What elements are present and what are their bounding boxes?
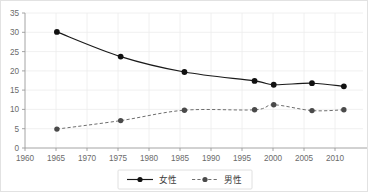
series-line-male [57, 105, 344, 129]
data-point[interactable] [182, 69, 188, 75]
x-tick-label: 2010 [326, 154, 345, 163]
y-tick-label: 20 [10, 67, 20, 76]
data-point[interactable] [252, 107, 257, 112]
x-tick-label: 1975 [109, 154, 128, 163]
data-point[interactable] [309, 108, 314, 113]
x-tick-label: 2000 [264, 154, 283, 163]
data-series-layer [54, 29, 347, 132]
series-male [54, 102, 346, 132]
x-tick-label: 1995 [233, 154, 252, 163]
data-point[interactable] [341, 83, 347, 89]
legend-label-female: 女性 [159, 174, 177, 185]
data-point[interactable] [54, 29, 60, 35]
series-line-female [57, 32, 344, 86]
gridlines-vertical [56, 13, 335, 148]
data-point[interactable] [309, 80, 315, 86]
chart-legend: 女性 男性 [118, 170, 252, 189]
y-tick-label: 35 [10, 9, 20, 18]
chart-plot-area: 35 30 25 20 15 10 5 0 1960 1965 1970 197… [1, 1, 368, 192]
x-tick-label: 1990 [202, 154, 221, 163]
x-tick-label: 1965 [47, 154, 66, 163]
legend-marker-female [137, 177, 142, 182]
y-tick-label: 25 [10, 48, 20, 57]
y-tick-label: 15 [10, 86, 20, 95]
data-point[interactable] [118, 118, 123, 123]
data-point[interactable] [182, 108, 187, 113]
series-female [54, 29, 347, 89]
data-point[interactable] [341, 107, 346, 112]
x-tick-label: 1980 [140, 154, 159, 163]
axis-lines [25, 13, 367, 148]
x-tick-label: 1970 [78, 154, 97, 163]
y-tick-label: 30 [10, 28, 20, 37]
y-tick-label: 10 [10, 105, 20, 114]
y-tick-label: 5 [14, 125, 19, 134]
legend-label-male: 男性 [224, 174, 242, 185]
legend-marker-male [202, 177, 207, 182]
line-chart-container: 35 30 25 20 15 10 5 0 1960 1965 1970 197… [0, 0, 368, 192]
x-axis-tick-labels: 1960 1965 1970 1975 1980 1985 1990 1995 … [16, 154, 345, 163]
y-axis-tick-labels: 35 30 25 20 15 10 5 0 [10, 9, 20, 153]
y-tick-label: 0 [14, 144, 19, 153]
data-point[interactable] [252, 78, 258, 84]
x-tick-label: 1960 [16, 154, 35, 163]
x-tick-label: 2005 [295, 154, 314, 163]
x-tick-label: 1985 [171, 154, 190, 163]
data-point[interactable] [271, 82, 277, 88]
data-point[interactable] [271, 102, 276, 107]
data-point[interactable] [54, 126, 59, 131]
data-point[interactable] [118, 54, 124, 60]
